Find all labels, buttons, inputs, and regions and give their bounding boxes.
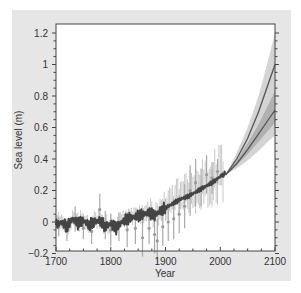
- observation-marker: [205, 173, 208, 176]
- x-tick-label: 2000: [209, 256, 232, 267]
- observation-marker: [126, 228, 129, 231]
- observation-marker: [189, 189, 192, 192]
- observation-marker: [141, 236, 144, 239]
- y-tick-label: 1.2: [34, 28, 48, 39]
- x-tick-label: 1900: [154, 256, 177, 267]
- chart-canvas: 17001800190020002100 −0.200.20.40.60.811…: [0, 0, 301, 293]
- y-axis-title: Sea level (m): [13, 111, 24, 170]
- observation-marker: [178, 213, 181, 216]
- observation-marker: [183, 205, 186, 208]
- x-tick-label: 1800: [100, 256, 123, 267]
- y-axis-tick-labels: −0.200.20.40.60.811.2: [28, 28, 48, 260]
- y-tick-label: 0.6: [34, 122, 48, 133]
- observation-marker: [167, 220, 170, 223]
- x-tick-label: 1700: [45, 256, 68, 267]
- y-tick-label: −0.2: [28, 248, 48, 259]
- y-tick-label: 0.8: [34, 91, 48, 102]
- observation-marker: [98, 208, 101, 211]
- observation-marker: [216, 170, 219, 173]
- x-tick-label: 2100: [264, 256, 287, 267]
- observation-marker: [161, 225, 164, 228]
- observation-marker: [153, 233, 156, 236]
- observation-marker: [82, 227, 85, 230]
- observation-marker: [134, 227, 137, 230]
- observation-marker: [147, 227, 150, 230]
- y-tick-label: 0.4: [34, 154, 48, 165]
- y-tick-label: 1: [42, 59, 48, 70]
- observation-marker: [210, 176, 213, 179]
- observation-marker: [156, 239, 159, 242]
- x-axis-tick-labels: 17001800190020002100: [45, 256, 287, 267]
- observation-marker: [194, 181, 197, 184]
- y-tick-label: 0: [42, 217, 48, 228]
- y-tick-label: 0.2: [34, 185, 48, 196]
- observation-marker: [172, 217, 175, 220]
- sea-level-chart: 17001800190020002100 −0.200.20.40.60.811…: [0, 0, 301, 293]
- x-axis-title: Year: [155, 268, 176, 279]
